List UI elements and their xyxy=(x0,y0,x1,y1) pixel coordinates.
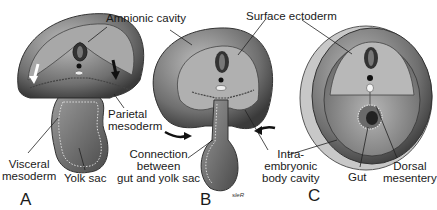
label-visceral-mesoderm: Visceral mesoderm xyxy=(2,158,56,182)
label-gut: Gut xyxy=(348,171,367,183)
artist-signature: sleR xyxy=(232,192,245,198)
panel-letter-c: C xyxy=(308,186,320,206)
label-parietal-mesoderm: Parietal mesoderm xyxy=(108,108,162,132)
panel-letter-a: A xyxy=(20,190,31,210)
label-connection-gut-yolk-sac: Connection between gut and yolk sac xyxy=(117,148,200,184)
label-yolk-sac: Yolk sac xyxy=(64,172,106,184)
label-amnionic-cavity: Amnionic cavity xyxy=(106,12,186,24)
label-surface-ectoderm: Surface ectoderm xyxy=(246,10,337,22)
panel-letter-b: B xyxy=(200,190,211,210)
label-dorsal-mesentery: Dorsal mesentery xyxy=(383,160,437,184)
label-intraembryonic-body-cavity: Intra- embryonic body cavity xyxy=(262,148,320,184)
